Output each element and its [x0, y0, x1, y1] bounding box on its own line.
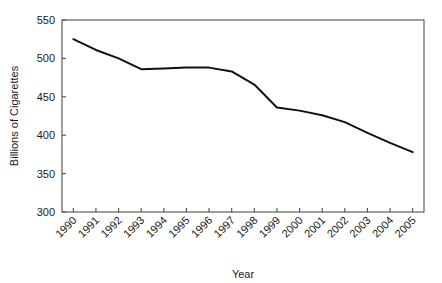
y-axis-title: Billions of Cigarettes — [8, 65, 20, 166]
y-tick-label: 400 — [37, 129, 55, 141]
x-axis-title: Year — [232, 268, 255, 280]
y-tick-label: 350 — [37, 168, 55, 180]
y-tick-label: 500 — [37, 52, 55, 64]
chart-container: 300350400450500550 199019911992199319941… — [0, 0, 442, 283]
y-tick-label: 300 — [37, 206, 55, 218]
line-chart: 300350400450500550 199019911992199319941… — [0, 0, 442, 283]
y-tick-label: 550 — [37, 14, 55, 26]
chart-background — [0, 0, 442, 283]
y-tick-label: 450 — [37, 91, 55, 103]
